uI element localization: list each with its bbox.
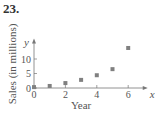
x-tick-label: 4 <box>94 89 99 100</box>
x-tick-label: 6 <box>126 89 131 100</box>
x-axis-arrow-icon <box>143 86 148 90</box>
data-point <box>111 67 115 71</box>
y-tick-label: 5 <box>26 68 31 79</box>
data-point <box>95 73 99 77</box>
y-tick-label: 10 <box>21 54 31 65</box>
data-points <box>32 46 130 89</box>
data-point <box>126 46 130 50</box>
axes <box>32 39 148 90</box>
scatter-chart: 02460510xyYear <box>0 0 155 119</box>
x-tick-label: 2 <box>63 89 68 100</box>
y-tick-label: 0 <box>26 83 31 94</box>
x-axis-letter: x <box>149 88 155 100</box>
data-point <box>79 78 83 82</box>
data-point <box>48 84 52 88</box>
y-axis-letter: y <box>23 36 29 48</box>
data-point <box>63 81 67 85</box>
x-tick-label: 0 <box>32 89 37 100</box>
axis-labels: 02460510xyYear <box>21 36 155 111</box>
y-axis-arrow-icon <box>32 39 36 44</box>
x-axis-label: Year <box>71 99 92 111</box>
